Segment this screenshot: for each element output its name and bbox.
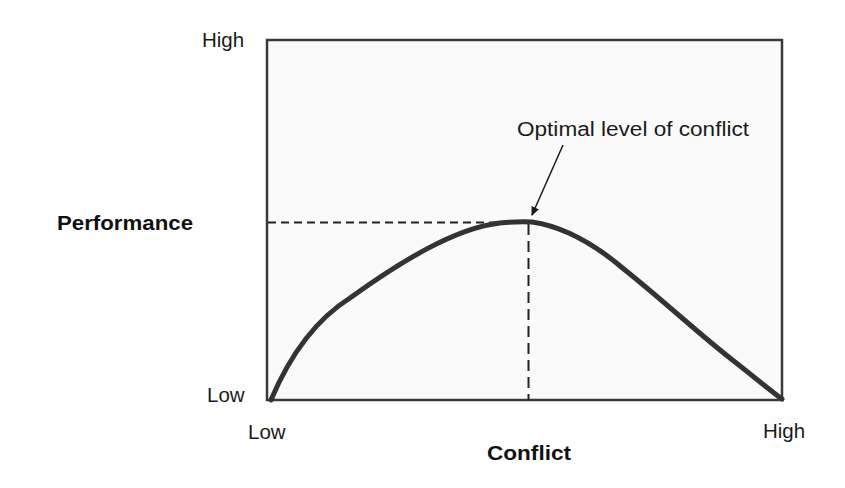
y-axis-title: Performance: [57, 212, 193, 234]
y-axis-high-label: High: [202, 28, 244, 51]
x-axis-low-label: Low: [248, 420, 286, 443]
x-axis-title: Conflict: [487, 442, 572, 464]
performance-conflict-diagram: Optimal level of conflict High Low Perfo…: [0, 0, 845, 488]
x-axis-high-label: High: [763, 419, 805, 442]
y-axis-low-label: Low: [207, 383, 245, 406]
optimal-level-annotation: Optimal level of conflict: [517, 118, 750, 140]
